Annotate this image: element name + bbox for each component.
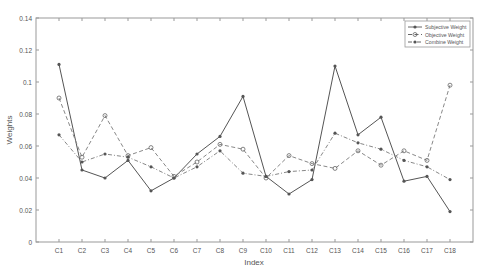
x-tick-label: C7: [193, 247, 202, 254]
x-tick-label: C13: [329, 247, 341, 254]
x-tick-label: C6: [170, 247, 179, 254]
x-tick-label: C8: [216, 247, 225, 254]
x-tick-label: C9: [239, 247, 248, 254]
x-tick-label: C12: [306, 247, 318, 254]
y-tick-label: 0.04: [19, 175, 32, 182]
series-objective-weight: [57, 83, 452, 180]
x-tick-label: C3: [101, 247, 110, 254]
plot-frame: [36, 18, 473, 242]
x-tick-label: C17: [421, 247, 433, 254]
legend: Subjective WeightObjective WeightCombine…: [405, 21, 470, 47]
x-tick-label: C16: [398, 247, 410, 254]
x-axis-label: Index: [244, 258, 264, 267]
x-axis: C1C2C3C4C5C6C7C8C9C10C11C12C13C14C15C16C…: [55, 18, 456, 254]
data-series: [57, 63, 452, 213]
x-tick-label: C1: [55, 247, 64, 254]
y-tick-label: 0.1: [23, 79, 32, 86]
series-combine-weight: [57, 132, 451, 182]
x-tick-label: C10: [260, 247, 272, 254]
x-tick-label: C4: [124, 247, 133, 254]
y-tick-label: 0: [28, 239, 32, 246]
legend-label: Objective Weight: [425, 32, 465, 38]
y-tick-label: 0.08: [19, 111, 32, 118]
x-tick-label: C15: [375, 247, 387, 254]
y-tick-label: 0.02: [19, 207, 32, 214]
series-subjective-weight: [57, 63, 451, 213]
x-tick-label: C14: [352, 247, 364, 254]
line-chart: 00.020.040.060.080.10.120.14 C1C2C3C4C5C…: [0, 0, 487, 273]
x-tick-label: C5: [147, 247, 156, 254]
x-tick-label: C11: [283, 247, 295, 254]
y-axis-label: Weights: [5, 116, 14, 145]
y-tick-label: 0.14: [19, 15, 32, 22]
x-tick-label: C18: [444, 247, 456, 254]
y-tick-label: 0.06: [19, 143, 32, 150]
y-tick-label: 0.12: [19, 47, 32, 54]
legend-label: Combine Weight: [425, 39, 464, 45]
x-tick-label: C2: [78, 247, 87, 254]
legend-label: Subjective Weight: [425, 24, 467, 30]
y-axis: 00.020.040.060.080.10.120.14: [19, 15, 473, 246]
